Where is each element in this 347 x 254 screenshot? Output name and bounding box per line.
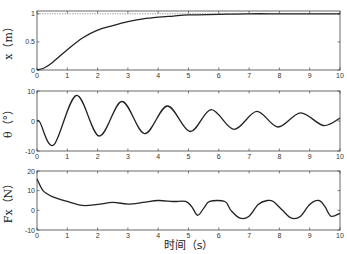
x-tick-label: 7 xyxy=(247,153,251,160)
axes-box xyxy=(37,91,340,151)
y-axis-label: x（m） xyxy=(2,21,15,60)
x-tick-label: 5 xyxy=(187,232,191,239)
x-tick-label: 10 xyxy=(336,232,344,239)
y-tick-label: 0 xyxy=(31,207,35,214)
x-tick-label: 7 xyxy=(247,72,251,79)
chart: 01234567891000.51x（m）012345678910-10010θ… xyxy=(0,0,347,254)
x-tick-label: 5 xyxy=(187,72,191,79)
x-tick-label: 4 xyxy=(156,153,160,160)
y-tick-label: 0 xyxy=(31,118,35,125)
x-tick-label: 9 xyxy=(308,232,312,239)
y-tick-label: 1 xyxy=(31,10,35,17)
subplot-1: 01234567891000.51x（m） xyxy=(2,10,344,79)
x-tick-label: 7 xyxy=(247,232,251,239)
series-line-theta xyxy=(37,95,340,145)
x-tick-label: 10 xyxy=(336,72,344,79)
y-tick-label: -10 xyxy=(25,227,35,234)
x-tick-label: 4 xyxy=(156,72,160,79)
y-tick-label: 10 xyxy=(27,187,35,194)
x-tick-label: 2 xyxy=(96,153,100,160)
x-tick-label: 1 xyxy=(65,232,69,239)
x-tick-label: 8 xyxy=(277,72,281,79)
series-line-x xyxy=(37,14,340,70)
x-tick-label: 3 xyxy=(126,232,130,239)
x-tick-label: 6 xyxy=(217,72,221,79)
x-tick-label: 0 xyxy=(35,232,39,239)
x-tick-label: 2 xyxy=(96,232,100,239)
x-tick-label: 0 xyxy=(35,153,39,160)
x-tick-label: 6 xyxy=(217,153,221,160)
x-tick-label: 10 xyxy=(336,153,344,160)
y-tick-label: -10 xyxy=(25,148,35,155)
x-tick-label: 9 xyxy=(308,72,312,79)
y-tick-label: 0 xyxy=(31,67,35,74)
y-axis-label: θ（°） xyxy=(2,104,15,138)
x-tick-label: 8 xyxy=(277,153,281,160)
x-tick-label: 3 xyxy=(126,72,130,79)
x-tick-label: 1 xyxy=(65,153,69,160)
x-tick-label: 3 xyxy=(126,153,130,160)
y-axis-label: Fx（N） xyxy=(2,178,15,223)
x-tick-label: 4 xyxy=(156,232,160,239)
x-tick-label: 1 xyxy=(65,72,69,79)
y-tick-label: 10 xyxy=(27,88,35,95)
series-line-Fx xyxy=(37,179,340,219)
x-tick-label: 8 xyxy=(277,232,281,239)
x-tick-label: 0 xyxy=(35,72,39,79)
x-tick-label: 9 xyxy=(308,153,312,160)
y-tick-label: 20 xyxy=(27,168,35,175)
subplot-2: 012345678910-10010θ（°） xyxy=(2,88,344,161)
x-tick-label: 6 xyxy=(217,232,221,239)
y-tick-label: 0.5 xyxy=(25,38,35,45)
subplot-3: 012345678910-1001020Fx（N） xyxy=(2,168,344,240)
axes-box xyxy=(37,171,340,230)
x-tick-label: 2 xyxy=(96,72,100,79)
axes-box xyxy=(37,11,340,70)
x-tick-label: 5 xyxy=(187,153,191,160)
x-axis-label: 时间（s） xyxy=(164,239,214,252)
